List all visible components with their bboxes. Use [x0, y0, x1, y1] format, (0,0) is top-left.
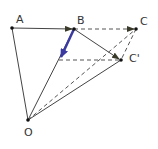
point-A — [10, 26, 14, 30]
point-O — [26, 118, 30, 122]
point-Cp — [119, 58, 123, 62]
vector-BCp — [74, 29, 119, 59]
label-A: A — [16, 13, 24, 26]
dashed-segment-OC — [28, 29, 136, 120]
label-Cp: C' — [129, 52, 140, 65]
blue-vector — [61, 29, 74, 57]
label-O: O — [24, 126, 33, 139]
segment-OA — [12, 28, 28, 120]
segment-OCp — [28, 60, 121, 120]
label-C: C — [140, 15, 148, 28]
point-C — [134, 27, 138, 31]
vector-diagram: A B C C' O — [0, 0, 158, 149]
label-B: B — [77, 14, 85, 27]
point-B — [72, 27, 76, 31]
vector-AB — [12, 28, 72, 29]
